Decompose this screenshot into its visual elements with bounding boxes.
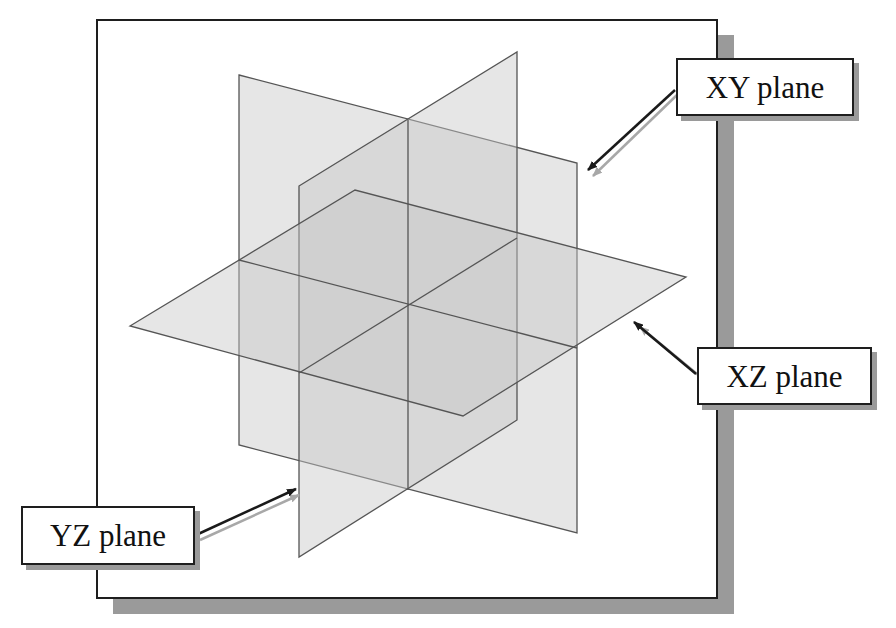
xy-arrow-shadow: [593, 94, 678, 176]
xz-arrow: [634, 322, 696, 374]
xz-plane-label: XZ plane: [697, 347, 872, 405]
yz-arrow-shadow: [200, 495, 299, 540]
xy-arrow: [588, 90, 675, 170]
xz-plane-label-text: XZ plane: [726, 361, 842, 392]
yz-arrow: [196, 489, 296, 535]
xy-plane-label-text: XY plane: [706, 72, 825, 103]
xy-plane-label: XY plane: [676, 58, 854, 116]
yz-plane-label: YZ plane: [21, 506, 195, 565]
yz-plane-label-text: YZ plane: [50, 520, 166, 551]
